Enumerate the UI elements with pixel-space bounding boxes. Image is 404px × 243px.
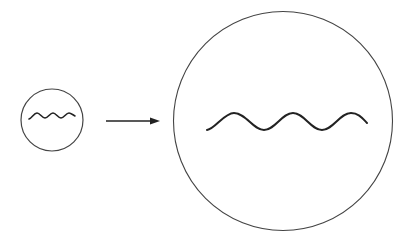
- small-circle: [21, 89, 83, 151]
- small-wave: [29, 113, 75, 119]
- large-circle-group: [174, 12, 393, 231]
- arrow-head-icon: [150, 118, 160, 125]
- magnification-diagram: [0, 0, 404, 243]
- large-wave: [207, 113, 367, 130]
- arrow: [106, 118, 160, 125]
- small-circle-group: [21, 89, 83, 151]
- large-circle: [174, 12, 393, 231]
